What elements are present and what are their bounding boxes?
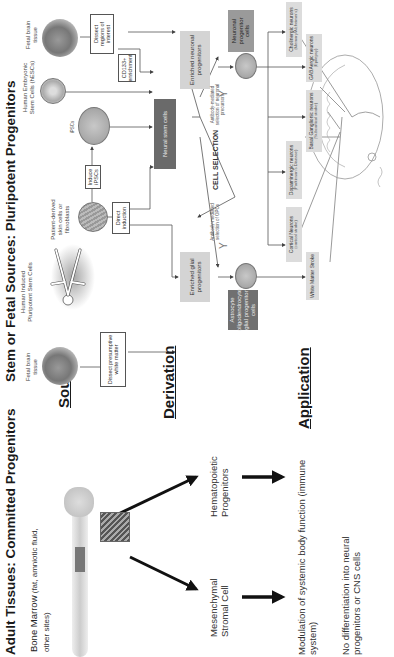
antibody-glial-text: Antibody-mediated selection of OPCs xyxy=(210,202,220,242)
app-sub: (Parkinson's Disease) xyxy=(294,150,299,191)
ipsc-dish-icon xyxy=(78,107,110,145)
no-differentiation-text: No differentiation into neural progenito… xyxy=(340,495,363,655)
induce-ipscs-box: Induce iPSCs xyxy=(85,165,101,189)
bone-marrow-name: Bone Marrow xyxy=(28,596,39,653)
hematopoietic-progenitors-label: Hematopoietic Progenitors xyxy=(208,432,231,517)
app-white-matter-stroke: White Matter Stroke xyxy=(306,252,319,300)
bone-marrow-label: Bone Marrow (fat, amniotic fluid, other … xyxy=(28,522,51,652)
antibody-icon-glial: Y xyxy=(218,242,229,249)
app-basal-ganglionic-neurons: Basal Ganglionic neurons (Subcortical st… xyxy=(306,90,322,152)
app-cholinergic-neurons: Cholinergic neurons (Memory/Alzheimer's) xyxy=(286,2,302,57)
ipscs-label: iPSCs xyxy=(70,115,75,139)
app-name: White Matter Stroke xyxy=(310,254,316,298)
app-sub: (cortical stroke) xyxy=(294,220,299,249)
dissect-regions-box: Dissect regions of interest xyxy=(90,14,114,54)
app-cortical-neurons: Cortical Neurons (cortical stroke) xyxy=(286,207,302,262)
app-dopaminergic-neurons: Dopaminergic neurons (Parkinson's Diseas… xyxy=(286,141,302,199)
embryonic-stem-cell-icon xyxy=(40,78,66,104)
glial-dish-icon xyxy=(235,263,257,289)
fetal-brain-icon xyxy=(42,347,78,385)
bone-marrow-cube-icon xyxy=(100,512,130,542)
app-sub: (Memory/Alzheimer's) xyxy=(294,9,299,50)
enriched-glial-progenitors-box: Enriched glial progenitors xyxy=(180,252,210,302)
cd133-enrichment-box: CD133+ enrichment xyxy=(118,54,136,82)
fetal-brain-icon-right xyxy=(42,19,78,57)
app-sub: (Subcortical stroke) xyxy=(314,103,319,139)
mesenchymal-stromal-cell-label: Mesenchymal Stromal Cell xyxy=(208,552,231,637)
hesc-label: Human Embryonic Stem Cells (hESCs) xyxy=(22,60,36,115)
app-sub: (Epilepsy) xyxy=(314,49,319,68)
dissect-white-matter-box: Dissect presumptive white matter xyxy=(100,332,126,387)
human-figure-icon xyxy=(38,242,100,312)
antibody-neuronal-text: Antibody-mediated selection of neuronal … xyxy=(210,82,226,127)
app-gabaergic-neurons: GABAergic neurons (Epilepsy) xyxy=(306,34,322,82)
stem-fetal-sources-title: Stem or Fetal Sources: Pluripotent Proge… xyxy=(3,80,18,382)
antibody-icon-neuronal: Y xyxy=(218,90,229,97)
bone-illustration-icon xyxy=(62,482,102,657)
neural-stem-cells-box: Neural stem cells xyxy=(154,99,176,169)
adult-tissues-title: Adult Tissues: Committed Progenitors xyxy=(3,408,18,655)
stem-cell-sources-figure: Adult Tissues: Committed Progenitors Ste… xyxy=(0,0,394,657)
modulation-application-text: Modulation of systemic body function (im… xyxy=(296,455,319,655)
neuronal-dish-icon xyxy=(235,53,257,79)
patient-cells-dish-icon xyxy=(78,202,108,232)
patient-cells-label: Patient-derived skin cells or fibroblast… xyxy=(50,197,71,242)
heading-application: Application xyxy=(295,347,312,429)
neuronal-progenitor-cells-box: Neuronal progenitor cells xyxy=(228,10,254,52)
direct-induction-box: Direct induction xyxy=(112,202,130,234)
glial-progenitor-cells-box: Astrocyte oligodendrocyte glial progenit… xyxy=(228,290,258,330)
heading-derivation: Derivation xyxy=(160,346,177,419)
fetal-brain-label-left: Fetal brain tissue xyxy=(25,347,39,387)
hipsc-label: Human Induced Pluripotent Stem Cells xyxy=(20,262,34,322)
cell-selection-label: CELL SELECTION xyxy=(212,130,219,190)
fetal-brain-label-right: Fetal brain tissue xyxy=(25,15,39,55)
enriched-neuronal-progenitors-box: Enriched neuronal progenitors xyxy=(180,31,210,89)
